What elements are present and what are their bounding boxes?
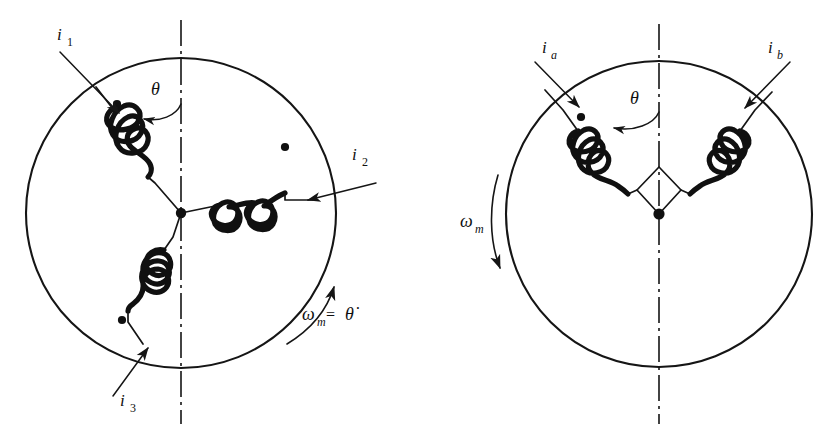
polarity-dot-phase-b — [743, 136, 751, 144]
lead-wire-phase-3-inner — [164, 213, 181, 250]
current-label-i2-symbol: i — [352, 145, 357, 164]
lead-wire-phase-2-outer — [285, 193, 313, 200]
wye-junction-dot-left — [176, 208, 186, 218]
neutral-junction-dot-right — [653, 208, 664, 219]
right-panel-two-phase-machine: i a i b θ ω m — [460, 24, 812, 424]
coil-winding-phase-b — [690, 129, 749, 194]
lead-wire-phase-1-inner — [148, 177, 181, 213]
current-label-ia-subscript: a — [551, 48, 557, 62]
coil-winding-phase-a — [569, 129, 628, 194]
machine-diagram-figure: i 1 i 2 i 3 θ ω — [0, 0, 821, 436]
theta-arc-left — [144, 104, 181, 120]
current-arrow-i3: i 3 — [113, 348, 148, 415]
omega-arc-right — [491, 175, 500, 268]
omega-symbol-left: ω — [302, 304, 315, 324]
current-arrow-i1: i 1 — [57, 25, 119, 113]
coil-phase-2 — [181, 143, 313, 231]
omega-rotation-indicator-right: ω m — [460, 175, 500, 268]
coil-phase-1 — [96, 87, 181, 213]
current-arrow-ia: i a — [535, 38, 579, 107]
coil-phase-a — [545, 90, 659, 214]
omega-subscript-right: m — [475, 222, 484, 236]
polarity-dot-phase-2 — [281, 143, 289, 151]
current-arrow-ib-line — [745, 62, 790, 108]
current-label-i3-symbol: i — [120, 391, 125, 410]
coil-phase-3 — [118, 213, 181, 344]
lead-wire-phase-b-inner — [659, 190, 690, 214]
figure-canvas: i 1 i 2 i 3 θ ω — [0, 0, 821, 436]
current-label-ia-symbol: i — [542, 38, 547, 57]
lead-wire-phase-a-inner — [628, 190, 659, 214]
current-arrow-i2-line — [308, 183, 376, 200]
omega-symbol-right: ω — [460, 211, 473, 231]
current-arrow-i1-line — [60, 52, 119, 113]
omega-subscript-left: m — [317, 315, 326, 329]
current-label-ib-symbol: i — [768, 38, 773, 57]
current-label-ib-subscript: b — [777, 48, 783, 62]
polarity-dot-phase-a — [577, 113, 585, 121]
theta-angle-indicator-left: θ — [144, 79, 181, 120]
polarity-dot-phase-1 — [113, 100, 121, 108]
current-label-i3-subscript: 3 — [130, 401, 136, 415]
lead-wire-phase-b-outer — [740, 92, 772, 131]
current-label-i1-symbol: i — [57, 25, 62, 44]
theta-angle-indicator-right: θ — [614, 88, 659, 129]
omega-rate-left: θ̇ — [345, 304, 360, 324]
theta-label-right: θ — [630, 88, 639, 108]
theta-label-left: θ — [151, 79, 160, 99]
current-label-i1-subscript: 1 — [67, 35, 73, 49]
coil-winding-phase-2 — [211, 193, 285, 231]
lead-wire-phase-3-outer — [128, 311, 143, 344]
omega-equals-left: = — [326, 306, 335, 323]
coil-phase-b — [659, 92, 772, 214]
left-panel-three-phase-machine: i 1 i 2 i 3 θ ω — [26, 20, 376, 424]
current-label-i2-subscript: 2 — [362, 155, 368, 169]
current-arrow-i2: i 2 — [308, 145, 376, 200]
theta-arc-right — [614, 112, 659, 129]
coil-winding-phase-3 — [128, 250, 171, 311]
coil-winding-phase-1 — [107, 105, 152, 177]
polarity-dot-phase-3 — [118, 316, 126, 324]
